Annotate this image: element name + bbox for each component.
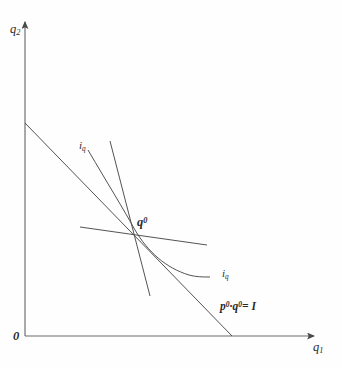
ic-upper-sub: q [82, 145, 86, 153]
origin-label: 0 [13, 330, 19, 343]
indifference-curve-label-lower: iq [222, 268, 229, 279]
indifference-curve-label-upper: iq [79, 140, 86, 151]
budget-line [25, 123, 232, 336]
diagram-canvas [0, 0, 342, 367]
x-axis-label: q1 [313, 341, 323, 354]
y-axis-label-sub: 2 [16, 28, 20, 37]
budget-label-rhs: = I [242, 300, 256, 312]
equilibrium-point-sup: 0 [143, 216, 147, 225]
economics-diagram: q2 q1 0 q0 iq iq p0·q0= I [0, 0, 342, 367]
y-axis-label: q2 [10, 23, 20, 36]
budget-line-label: p0·q0= I [220, 301, 256, 313]
x-axis-label-sub: 1 [319, 346, 323, 355]
indifference-curve [88, 150, 210, 277]
ic-lower-sub: q [225, 273, 229, 281]
equilibrium-point-label: q0 [137, 216, 147, 229]
